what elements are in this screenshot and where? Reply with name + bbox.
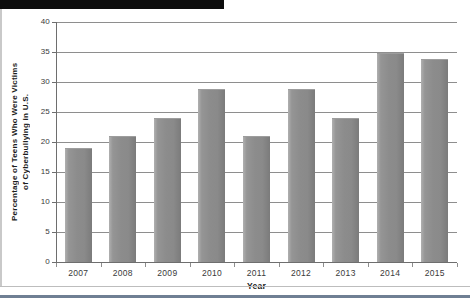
y-tick-label-20: 20 (24, 137, 50, 146)
bar-2010[interactable] (198, 89, 225, 262)
footer-rule-accent (0, 295, 470, 298)
x-tick-label-2012: 2012 (279, 268, 323, 278)
x-tick-label-2008: 2008 (101, 268, 145, 278)
x-tick-label-2011: 2011 (235, 268, 279, 278)
y-tick-label-0: 0 (24, 257, 50, 266)
bar-2015[interactable] (421, 59, 448, 262)
y-axis-title-line-1: Percentage of Teens Who Were Victims (9, 22, 20, 262)
bar-2011[interactable] (243, 136, 270, 262)
y-tick-mark-20 (52, 142, 57, 143)
bar-2014[interactable] (377, 53, 404, 262)
x-tick-label-2009: 2009 (145, 268, 189, 278)
x-tick-mark-5 (279, 263, 280, 267)
bar-2007[interactable] (65, 148, 92, 262)
x-tick-label-2013: 2013 (324, 268, 368, 278)
y-tick-label-25: 25 (24, 107, 50, 116)
plot-area (56, 22, 457, 262)
gridline-40 (56, 22, 457, 23)
y-tick-mark-25 (52, 112, 57, 113)
y-tick-mark-15 (52, 172, 57, 173)
y-tick-label-40: 40 (24, 17, 50, 26)
y-tick-label-15: 15 (24, 167, 50, 176)
x-tick-label-2007: 2007 (56, 268, 100, 278)
y-tick-mark-40 (52, 22, 57, 23)
x-axis-line (56, 262, 457, 263)
bar-2012[interactable] (288, 89, 315, 262)
y-tick-label-30: 30 (24, 77, 50, 86)
y-tick-label-5: 5 (24, 227, 50, 236)
bar-2008[interactable] (109, 136, 136, 262)
bar-2013[interactable] (332, 118, 359, 262)
y-tick-mark-35 (52, 52, 57, 53)
x-tick-mark-end (457, 263, 458, 267)
bar-2009[interactable] (154, 118, 181, 262)
redaction-bar (0, 0, 224, 9)
x-tick-mark-6 (323, 263, 324, 267)
x-tick-mark-4 (234, 263, 235, 267)
y-tick-label-10: 10 (24, 197, 50, 206)
x-tick-mark-1 (101, 263, 102, 267)
y-tick-mark-30 (52, 82, 57, 83)
bar-chart-figure: Percentage of Teens Who Were Victims of … (0, 9, 470, 286)
x-tick-mark-7 (368, 263, 369, 267)
x-tick-mark-8 (412, 263, 413, 267)
y-tick-mark-10 (52, 202, 57, 203)
x-tick-mark-0 (56, 263, 57, 267)
x-tick-label-2014: 2014 (368, 268, 412, 278)
x-tick-mark-2 (145, 263, 146, 267)
footer-rule-thin (0, 286, 470, 287)
y-tick-label-35: 35 (24, 47, 50, 56)
x-tick-mark-3 (190, 263, 191, 267)
x-tick-label-2015: 2015 (413, 268, 457, 278)
x-tick-label-2010: 2010 (190, 268, 234, 278)
y-tick-mark-5 (52, 232, 57, 233)
